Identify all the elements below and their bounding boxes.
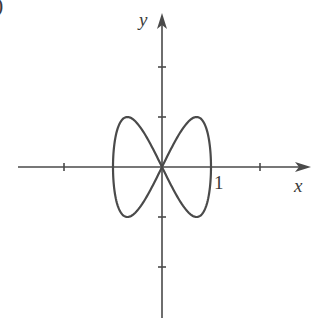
y-axis-label: y: [139, 10, 147, 29]
x-axis-label: x: [294, 176, 302, 195]
plot-area: [0, 0, 322, 331]
axes: [18, 13, 311, 318]
unit-tick-label: 1: [214, 173, 224, 192]
